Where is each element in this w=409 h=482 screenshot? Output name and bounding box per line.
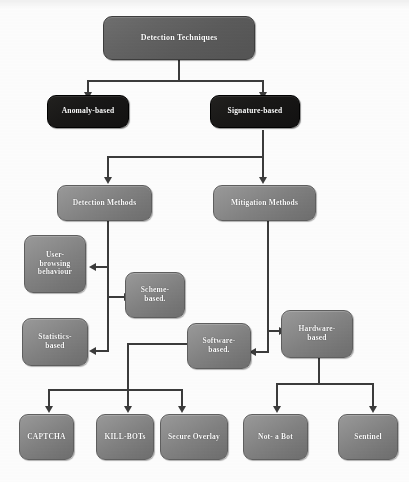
node-captcha[interactable]: CAPTCHA (19, 414, 74, 460)
node-label-line2: based. (208, 346, 229, 355)
node-not-a-bot[interactable]: Not- a Bot (243, 414, 308, 460)
node-label-line2: based (307, 334, 326, 343)
edge-root-stem (178, 59, 180, 81)
edge-signature-to-detection (107, 156, 109, 178)
edge-root-split-bar (87, 80, 263, 82)
node-label: Not- a Bot (258, 433, 293, 442)
arrowhead-detection-methods (104, 177, 112, 184)
node-detection-methods[interactable]: Detection Methods (57, 185, 152, 221)
edge-software-to-killbots (127, 389, 129, 407)
edge-software-to-overlay (181, 389, 183, 407)
node-label: Detection Methods (73, 199, 137, 208)
edge-detection-trunk (107, 221, 109, 351)
node-label-line3: behaviour (38, 268, 72, 277)
edge-signature-stem (262, 130, 264, 157)
node-label-line2: based. (144, 295, 165, 304)
node-kill-bots[interactable]: KILL-BOTs (96, 414, 154, 460)
node-anomaly-based[interactable]: Anomaly-based (47, 95, 129, 128)
edge-signature-split-bar (107, 156, 264, 158)
node-secure-overlay[interactable]: Secure Overlay (160, 414, 228, 460)
edge-hardware-stem (318, 358, 320, 384)
node-software-based[interactable]: Software- based. (187, 323, 251, 369)
node-detection-techniques[interactable]: Detection Techniques (103, 16, 255, 60)
node-label: Detection Techniques (141, 33, 218, 42)
arrowhead-statistics (89, 347, 96, 355)
edge-detection-to-scheme (107, 296, 125, 298)
edge-mitigation-to-software (255, 351, 269, 353)
node-signature-based[interactable]: Signature-based (210, 95, 300, 128)
node-label: KILL-BOTs (104, 433, 145, 442)
arrowhead-overlay (178, 406, 186, 413)
arrowhead-killbots (124, 406, 132, 413)
node-hardware-based[interactable]: Hardware- based (281, 310, 353, 358)
node-user-browsing-behaviour[interactable]: User- browsing behaviour (24, 235, 86, 293)
node-label: Secure Overlay (168, 433, 220, 442)
edge-software-lead (127, 343, 187, 345)
node-label: Mitigation Methods (231, 199, 298, 208)
node-scheme-based[interactable]: Scheme- based. (125, 272, 185, 318)
node-label: Anomaly-based (62, 107, 115, 116)
arrowhead-notabot (273, 406, 281, 413)
edge-hardware-split-bar (276, 383, 374, 385)
edge-detection-to-userbrowse (95, 266, 109, 268)
edge-software-to-captcha (48, 389, 50, 407)
arrowhead-mitigation-methods (259, 177, 267, 184)
node-sentinel[interactable]: Sentinel (338, 414, 398, 460)
edge-software-drop (127, 343, 129, 390)
arrowhead-captcha (45, 406, 53, 413)
edge-hardware-to-notabot (276, 383, 278, 407)
arrowhead-sentinel (369, 406, 377, 413)
node-label: CAPTCHA (27, 433, 65, 442)
arrowhead-userbrowse (89, 263, 96, 271)
page-top-edge (0, 0, 409, 9)
node-label: Sentinel (354, 433, 381, 442)
edge-hardware-to-sentinel (372, 383, 374, 407)
node-statistics-based[interactable]: Statistics- based (22, 318, 88, 366)
node-label: Signature-based (228, 107, 283, 116)
node-mitigation-methods[interactable]: Mitigation Methods (213, 185, 316, 221)
edge-mitigation-trunk (267, 221, 269, 353)
edge-software-split-bar (48, 389, 182, 391)
node-label-line2: based (45, 342, 64, 351)
flowchart-canvas: Detection Techniques Anomaly-based Signa… (0, 0, 409, 482)
edge-detection-to-statistics (95, 350, 109, 352)
edge-signature-to-mitigation (262, 156, 264, 178)
